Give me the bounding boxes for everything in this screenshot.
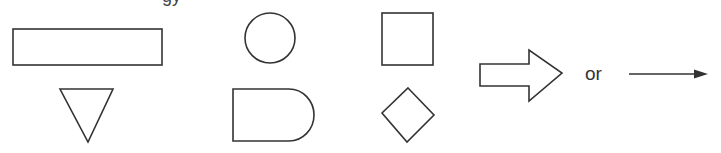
delay-shape <box>233 89 314 141</box>
block-arrow-shape <box>480 50 562 101</box>
square-shape <box>382 13 433 65</box>
diamond-shape <box>382 88 434 142</box>
inverted-triangle-shape <box>60 89 113 142</box>
cut-off-heading-text: gy <box>162 0 181 7</box>
circle-shape <box>245 13 295 63</box>
flowchart-symbols-diagram: gy or <box>0 0 721 153</box>
shapes-canvas <box>0 0 721 153</box>
or-label: or <box>585 63 602 85</box>
line-arrow-head-icon <box>694 70 708 79</box>
rectangle-shape <box>13 29 162 65</box>
